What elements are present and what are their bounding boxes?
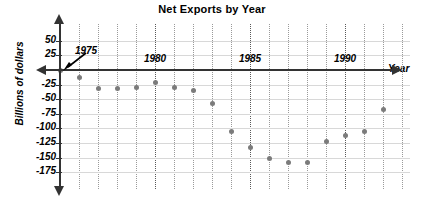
gridline-horizontal [60, 85, 410, 86]
y-tick-label: -175 [20, 165, 56, 176]
x-axis-arrow-right [392, 65, 402, 75]
x-tick-label: 1980 [133, 53, 177, 64]
gridline-vertical [193, 24, 194, 189]
gridline-vertical [212, 24, 213, 189]
data-point [77, 75, 82, 80]
y-tick-label: -50 [20, 92, 56, 103]
gridline-vertical [326, 24, 327, 189]
x-axis-arrow-left [36, 65, 46, 75]
gridline-vertical [269, 24, 270, 189]
gridline-vertical [136, 24, 137, 189]
y-tick-labels: 5025-25-50-75-100-125-150-175 [18, 0, 56, 207]
data-point [248, 145, 253, 150]
data-point [115, 86, 120, 91]
gridline-horizontal [60, 114, 410, 115]
gridline-vertical [174, 24, 175, 189]
gridline-horizontal [60, 172, 410, 173]
gridline-vertical [117, 24, 118, 189]
y-tick-label: 50 [20, 34, 56, 45]
y-tick-label: 25 [20, 48, 56, 59]
x-axis-line [46, 69, 394, 71]
gridline-horizontal [60, 143, 410, 144]
x-tick-label: 1975 [64, 45, 108, 56]
data-point [172, 85, 177, 90]
gridline-horizontal [60, 128, 410, 129]
y-tick-label: -25 [20, 78, 56, 89]
y-axis-arrow-down [54, 186, 64, 196]
data-point [343, 133, 348, 138]
data-point [210, 101, 215, 106]
data-point [96, 86, 101, 91]
data-point [191, 88, 196, 93]
data-point [134, 85, 139, 90]
y-tick-label: -75 [20, 107, 56, 118]
chart-canvas: Net Exports by Year Billions of dollars … [0, 0, 424, 207]
x-tick-label: 1990 [323, 53, 367, 64]
data-point [324, 139, 329, 144]
gridline-vertical [345, 24, 346, 189]
gridline-vertical [155, 24, 156, 189]
gridline-horizontal [60, 99, 410, 100]
gridline-vertical [231, 24, 232, 189]
y-tick-label: -125 [20, 136, 56, 147]
data-point [362, 129, 367, 134]
data-point [153, 80, 158, 85]
gridline-vertical [402, 24, 403, 189]
data-point [267, 156, 272, 161]
y-axis-line [59, 22, 61, 192]
data-point [381, 107, 386, 112]
y-tick-label: -150 [20, 151, 56, 162]
gridline-vertical [250, 24, 251, 189]
y-tick-label: -100 [20, 121, 56, 132]
x-tick-label: 1985 [228, 53, 272, 64]
y-axis-arrow-up [54, 14, 64, 24]
gridline-horizontal [60, 41, 410, 42]
plot-area [60, 24, 415, 189]
gridline-vertical [364, 24, 365, 189]
data-point [305, 160, 310, 165]
data-point [286, 160, 291, 165]
data-point [229, 129, 234, 134]
gridline-horizontal [60, 158, 410, 159]
